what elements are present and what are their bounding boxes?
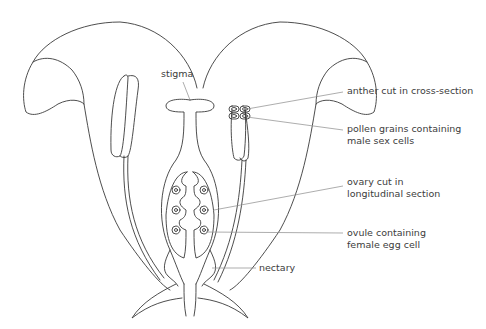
- pistil: [161, 99, 218, 284]
- label-stigma: stigma: [161, 68, 193, 80]
- left-petal: [24, 22, 197, 290]
- label-pollen-grains: pollen grains containing male sex cells: [347, 123, 461, 147]
- label-ovary-line2: longitudinal section: [347, 188, 440, 200]
- label-ovule-line2: female egg cell: [347, 239, 426, 251]
- right-stamen: [214, 106, 250, 282]
- receptacle-and-sepals: [132, 250, 248, 318]
- label-ovary: ovary cut in longitudinal section: [347, 176, 440, 200]
- leader-ovary: [214, 186, 343, 210]
- leader-ovule: [206, 232, 343, 233]
- label-anther-line1: anther cut in cross-section: [347, 85, 473, 96]
- label-pollen-line2: male sex cells: [347, 135, 461, 147]
- leader-lines: [183, 82, 343, 268]
- left-stamen: [111, 75, 164, 280]
- label-anther: anther cut in cross-section: [347, 85, 473, 97]
- leader-stigma: [183, 82, 190, 100]
- leader-pollen: [247, 117, 343, 130]
- ovules: [172, 186, 208, 234]
- label-ovary-line1: ovary cut in: [347, 176, 440, 188]
- flower-section-diagram: [0, 0, 486, 329]
- label-nectary: nectary: [259, 262, 295, 274]
- label-ovule: ovule containing female egg cell: [347, 227, 426, 251]
- label-ovule-line1: ovule containing: [347, 227, 426, 239]
- label-pollen-line1: pollen grains containing: [347, 123, 461, 135]
